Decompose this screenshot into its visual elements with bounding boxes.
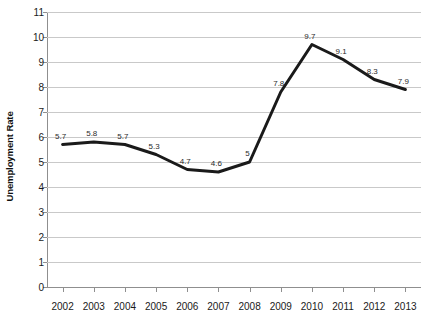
x-tick-mark-2006 [187,287,188,292]
series-line [47,12,421,287]
y-tick-label-11: 11 [22,7,44,18]
x-tick-mark-2013 [405,287,406,292]
y-axis-title: Unemployment Rate [0,0,18,313]
data-label-2012: 8.3 [367,67,378,76]
y-tick-label-5: 5 [22,157,44,168]
data-label-2007: 4.6 [211,159,222,168]
x-tick-label-2013: 2013 [385,301,425,312]
y-tick-label-3: 3 [22,207,44,218]
x-tick-mark-2004 [125,287,126,292]
data-label-2006: 4.7 [180,157,191,166]
y-tick-label-4: 4 [22,182,44,193]
x-tick-mark-2011 [343,287,344,292]
x-tick-mark-2012 [374,287,375,292]
data-label-2010: 9.7 [304,32,315,41]
x-tick-mark-2010 [312,287,313,292]
data-label-2003: 5.8 [86,129,97,138]
x-tick-mark-2003 [94,287,95,292]
data-label-2005: 5.3 [149,142,160,151]
plot-area: 5.75.85.75.34.74.657.89.79.18.37.9 20022… [47,12,421,287]
data-label-2011: 9.1 [336,47,347,56]
data-label-2002: 5.7 [55,132,66,141]
x-tick-mark-2009 [281,287,282,292]
gridline-0 [47,287,421,288]
y-tick-label-6: 6 [22,132,44,143]
data-label-2004: 5.7 [117,132,128,141]
x-tick-mark-2005 [156,287,157,292]
y-tick-label-7: 7 [22,107,44,118]
data-label-2013: 7.9 [398,77,409,86]
x-tick-mark-2002 [63,287,64,292]
x-tick-mark-2007 [218,287,219,292]
data-label-2008: 5 [245,149,249,158]
y-tick-label-0: 0 [22,282,44,293]
y-tick-label-1: 1 [22,257,44,268]
y-tick-label-8: 8 [22,82,44,93]
y-tick-label-9: 9 [22,57,44,68]
data-label-2009: 7.8 [273,79,284,88]
unemployment-rate-line-chart: Unemployment Rate 5.75.85.75.34.74.657.8… [0,0,429,313]
y-tick-label-2: 2 [22,232,44,243]
x-tick-mark-2008 [250,287,251,292]
y-tick-label-10: 10 [22,32,44,43]
